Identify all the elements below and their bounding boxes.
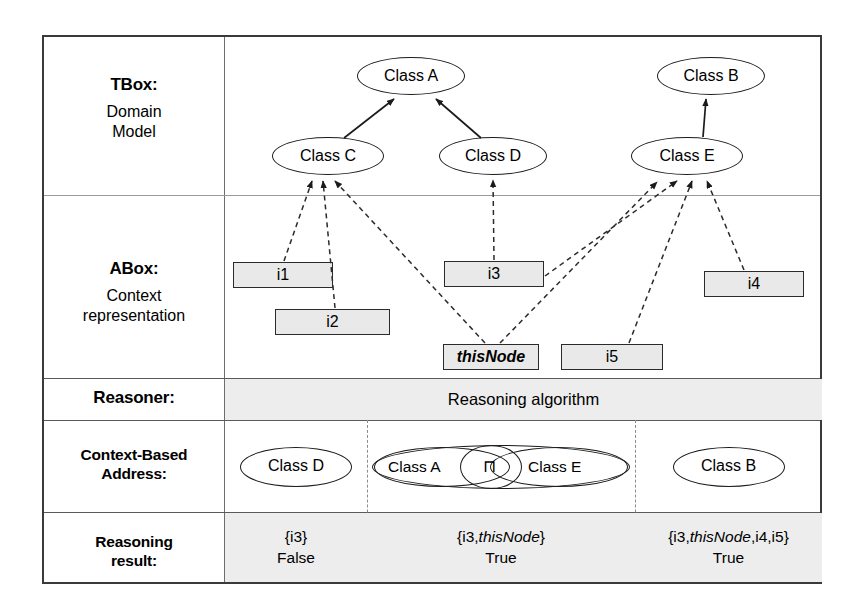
address-cell-3[interactable]: Class B xyxy=(635,421,822,512)
address-cell-2[interactable]: Class A ⊓ Class E xyxy=(367,421,635,512)
result-value-2: True xyxy=(485,548,516,568)
edge-i5-to-e xyxy=(629,181,692,343)
result-set-1: {i3} xyxy=(285,527,307,547)
row-label-abox-subtitle: Contextrepresentation xyxy=(48,286,220,326)
class-node-e[interactable]: Class E xyxy=(631,137,743,175)
reasoner-band: Reasoning algorithm xyxy=(225,379,822,420)
edge-i2-to-c xyxy=(323,181,335,308)
address-class-b-ellipse: Class B xyxy=(673,447,785,487)
row-divider-tbox-abox xyxy=(44,195,820,196)
instance-box-i1[interactable]: i1 xyxy=(233,262,333,288)
result-set-3: {i3,thisNode,i4,i5} xyxy=(668,527,789,547)
instance-box-i5[interactable]: i5 xyxy=(561,344,663,370)
row-label-tbox: TBox: DomainModel xyxy=(44,75,224,142)
class-node-c[interactable]: Class C xyxy=(272,137,384,175)
result-value-1: False xyxy=(277,548,315,568)
class-node-a[interactable]: Class A xyxy=(357,57,465,95)
edge-d-to-a xyxy=(436,99,481,138)
edge-i3-to-d xyxy=(493,180,494,260)
edge-c-to-a xyxy=(344,99,394,138)
row-label-tbox-title: TBox: xyxy=(48,75,220,95)
result-cell-3[interactable]: {i3,thisNode,i4,i5} True xyxy=(635,513,822,582)
edge-i1-to-c xyxy=(284,181,312,261)
row-label-result-title: Reasoningresult: xyxy=(48,533,220,570)
row-label-abox-title: ABox: xyxy=(48,259,220,279)
column-divider-top xyxy=(224,37,225,413)
diagram-frame: TBox: DomainModel ABox: Contextrepresent… xyxy=(42,35,822,584)
row-label-reasoner: Reasoner: xyxy=(44,388,224,408)
instance-box-i2[interactable]: i2 xyxy=(275,309,390,335)
result-set-2: {i3,thisNode} xyxy=(457,527,545,547)
class-node-b[interactable]: Class B xyxy=(657,57,765,95)
row-label-address: Context-BasedAddress: xyxy=(44,446,224,483)
instance-box-i3[interactable]: i3 xyxy=(444,261,544,287)
class-node-d[interactable]: Class D xyxy=(439,137,547,175)
edge-e-to-b xyxy=(703,99,706,137)
intersection-group: Class A ⊓ Class E xyxy=(372,441,630,493)
row-label-result: Reasoningresult: xyxy=(44,533,224,570)
address-class-a-label: Class A xyxy=(388,457,441,477)
instance-box-i4[interactable]: i4 xyxy=(704,271,804,297)
result-cell-2[interactable]: {i3,thisNode} True xyxy=(367,513,635,582)
address-class-d-ellipse: Class D xyxy=(240,447,352,487)
row-label-address-title: Context-BasedAddress: xyxy=(48,446,220,483)
result-cell-1[interactable]: {i3} False xyxy=(225,513,367,582)
address-cell-1[interactable]: Class D xyxy=(225,421,367,512)
intersection-symbol: ⊓ xyxy=(483,456,496,478)
row-label-abox: ABox: Contextrepresentation xyxy=(44,259,224,326)
instance-box-thisnode[interactable]: thisNode xyxy=(443,344,539,370)
row-label-reasoner-title: Reasoner: xyxy=(48,388,220,408)
row-label-tbox-subtitle: DomainModel xyxy=(48,102,220,142)
result-value-3: True xyxy=(713,548,744,568)
address-class-e-label: Class E xyxy=(528,457,581,477)
